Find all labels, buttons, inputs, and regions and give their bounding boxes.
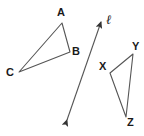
vertex-label-c: C <box>6 67 14 78</box>
triangle-xyz <box>110 54 133 117</box>
vertex-label-a: A <box>57 7 65 18</box>
line-label-ell: ℓ <box>106 13 111 26</box>
vertex-label-x: X <box>99 61 106 72</box>
vertex-label-y: Y <box>132 41 139 52</box>
geometry-canvas <box>0 0 144 136</box>
vertex-label-z: Z <box>127 117 134 128</box>
triangle-abc <box>19 23 70 72</box>
vertex-label-b: B <box>72 46 80 57</box>
geometry-figure: A B C X Y Z ℓ <box>0 0 144 136</box>
line-ell <box>67 22 101 120</box>
